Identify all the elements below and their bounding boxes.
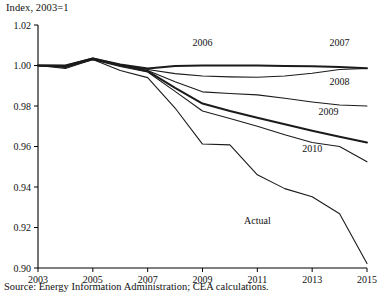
y-tick-label: 0.94 bbox=[14, 182, 32, 193]
series-line-2007 bbox=[38, 59, 367, 77]
y-tick-label: 0.98 bbox=[14, 101, 32, 112]
series-annotation-2006: 2006 bbox=[193, 37, 213, 48]
energy-index-chart-figure: Index, 2003=1 0.900.920.940.960.981.001.… bbox=[0, 0, 381, 298]
y-tick-label: 1.00 bbox=[14, 60, 32, 71]
x-tick-label: 2015 bbox=[357, 274, 377, 285]
chart-canvas: 0.900.920.940.960.981.001.02 20032005200… bbox=[0, 0, 381, 298]
y-tick-label: 0.92 bbox=[14, 222, 32, 233]
series-line-2009 bbox=[38, 58, 367, 142]
source-note: Source: Energy Information Administratio… bbox=[4, 281, 269, 292]
y-tick-label: 0.96 bbox=[14, 141, 32, 152]
y-tick-label: 1.02 bbox=[14, 20, 32, 31]
x-tick-label: 2013 bbox=[302, 274, 322, 285]
series-annotation-2010: 2010 bbox=[302, 143, 322, 154]
series-annotation-2008: 2008 bbox=[330, 76, 350, 87]
series-annotation-2009: 2009 bbox=[319, 106, 339, 117]
series-annotation-actual: Actual bbox=[244, 215, 271, 226]
y-axis-tick-group: 0.900.920.940.960.981.001.02 bbox=[14, 20, 39, 274]
data-series-group bbox=[38, 58, 367, 263]
y-tick-label: 0.90 bbox=[14, 263, 32, 274]
series-annotation-2007: 2007 bbox=[330, 37, 350, 48]
series-line-actual bbox=[38, 59, 367, 263]
